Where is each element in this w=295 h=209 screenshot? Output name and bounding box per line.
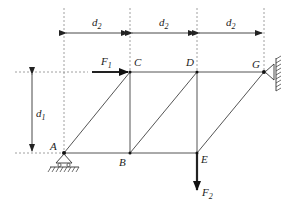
- node-label-E: E: [200, 153, 208, 165]
- roller-support-icon: [48, 154, 79, 172]
- vertical-dimension: d1: [32, 74, 46, 151]
- node-label-B: B: [119, 156, 126, 168]
- truss-members: [64, 72, 264, 153]
- node-label-C: C: [134, 56, 142, 68]
- node-label-G: G: [252, 58, 260, 70]
- node-label-D: D: [185, 56, 194, 68]
- wall-support-icon: [265, 56, 281, 91]
- member-BD: [130, 72, 197, 153]
- node-C: [129, 71, 132, 74]
- truss-diagram: d2 d2 d2 d1: [0, 0, 295, 209]
- member-AC: [64, 72, 130, 153]
- member-EG: [197, 72, 264, 153]
- dim-label-d2-2: d2: [159, 16, 169, 31]
- force-label-F2: F2: [201, 186, 213, 201]
- node-labels: A B E C D G: [49, 56, 260, 168]
- force-label-F1: F1: [100, 55, 112, 70]
- node-D: [196, 71, 199, 74]
- horizontal-dimensions: d2 d2 d2: [66, 16, 262, 33]
- extension-lines: [15, 8, 264, 153]
- dim-label-d2-3: d2: [226, 16, 236, 31]
- dim-label-d1: d1: [36, 107, 46, 122]
- node-label-A: A: [49, 140, 57, 152]
- dim-label-d2-1: d2: [92, 16, 102, 31]
- node-B: [129, 152, 132, 155]
